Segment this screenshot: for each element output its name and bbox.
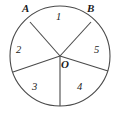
center-point-o-label: O (61, 59, 69, 70)
sector-3-label: 3 (32, 82, 37, 93)
sector-5-label: 5 (94, 45, 99, 56)
circle-sector-figure: A B O 1 2 3 4 5 (0, 0, 117, 114)
sector-1-label: 1 (56, 12, 61, 23)
point-b-label: B (87, 3, 94, 14)
sector-2-label: 2 (16, 45, 21, 56)
sector-4-label: 4 (77, 82, 82, 93)
radius-lower-left (13, 56, 60, 72)
radius-to-a (30, 22, 60, 56)
point-a-label: A (22, 3, 29, 14)
radius-to-b (60, 22, 91, 56)
